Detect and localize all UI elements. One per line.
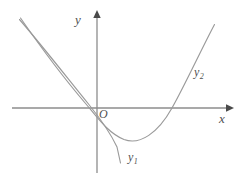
y-axis-arrowhead [93, 10, 100, 18]
origin-label: O [99, 108, 108, 120]
curve-label-y2: y2 [194, 66, 203, 78]
y-axis-label: y [75, 13, 81, 26]
curve-label-y1: y1 [128, 151, 137, 163]
curve-y2-parabola [21, 18, 215, 141]
curve-label-y1-base: y [128, 150, 133, 164]
curve-label-y1-subscript: 1 [134, 157, 138, 166]
coordinate-plot [0, 0, 244, 181]
x-axis-arrowhead [226, 104, 234, 111]
x-axis-label: x [219, 112, 225, 125]
curve-label-y2-base: y [194, 65, 199, 79]
curve-label-y2-subscript: 2 [200, 72, 204, 81]
curve-y1-line [20, 20, 121, 164]
math-figure: y x O y1 y2 [0, 0, 244, 181]
